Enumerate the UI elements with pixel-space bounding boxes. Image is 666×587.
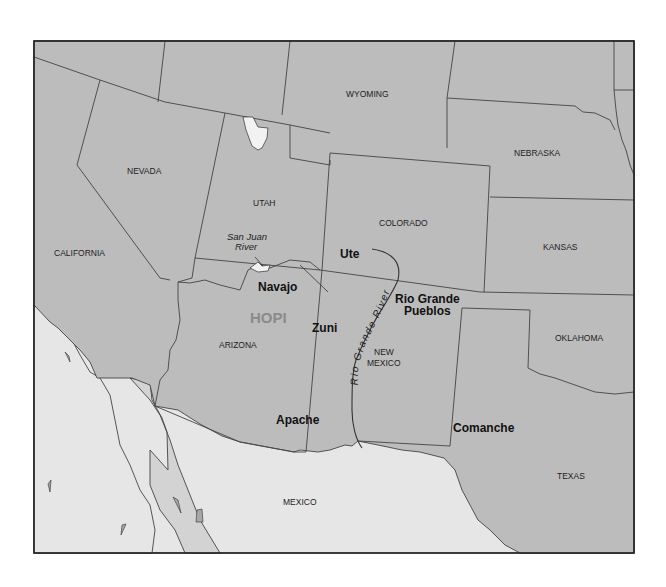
label-oklahoma: OKLAHOMA bbox=[555, 333, 604, 343]
tribe-ute: Ute bbox=[340, 247, 360, 261]
label-colorado: COLORADO bbox=[379, 218, 428, 228]
tribe-hopi: HOPI bbox=[250, 309, 287, 326]
label-california: CALIFORNIA bbox=[54, 248, 105, 258]
label-arizona: ARIZONA bbox=[219, 340, 257, 350]
tribe-zuni: Zuni bbox=[312, 321, 337, 335]
tribe-apache: Apache bbox=[276, 413, 320, 427]
label-new-mexico-2: MEXICO bbox=[367, 358, 401, 368]
label-wyoming: WYOMING bbox=[346, 89, 389, 99]
label-nevada: NEVADA bbox=[127, 166, 162, 176]
tribe-rio-grande-pueblos-2: Pueblos bbox=[404, 304, 451, 318]
island bbox=[196, 509, 203, 522]
tribe-navajo: Navajo bbox=[258, 280, 297, 294]
label-mexico: MEXICO bbox=[283, 497, 317, 507]
southwest-tribes-map: WYOMING NEBRASKA NEVADA UTAH COLORADO KA… bbox=[0, 0, 666, 587]
label-new-mexico-1: NEW bbox=[374, 347, 394, 357]
tribe-comanche: Comanche bbox=[453, 421, 515, 435]
label-nebraska: NEBRASKA bbox=[514, 148, 561, 158]
label-texas: TEXAS bbox=[557, 471, 585, 481]
river-san-juan-2: River bbox=[235, 241, 258, 252]
label-kansas: KANSAS bbox=[543, 242, 578, 252]
label-utah: UTAH bbox=[253, 198, 276, 208]
